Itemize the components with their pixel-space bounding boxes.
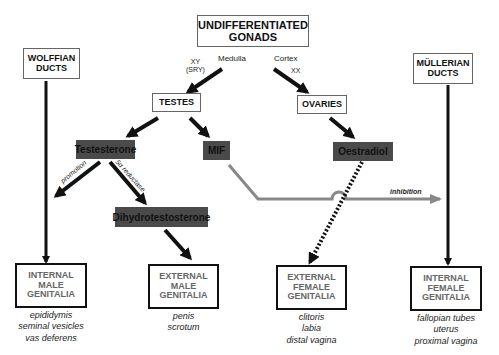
ovaries-box: OVARIES: [297, 95, 347, 114]
medulla-label: Medulla: [218, 55, 246, 64]
arrow-to-oestradiol: [330, 118, 353, 137]
testes-box: TESTES: [152, 93, 201, 112]
internal-male-list: epididymis seminal vesicles vas deferens: [10, 310, 92, 344]
dihydrotestosterone-box: Dihydrotestosterone: [115, 207, 208, 227]
arrow-to-external-male: [165, 230, 190, 258]
inhibition-label: inhibition: [390, 188, 422, 196]
external-female-list: clitoris labia distal vagina: [276, 312, 347, 346]
oestradiol-dotted-arrow: [310, 162, 362, 262]
xx-label: XX: [291, 67, 300, 75]
mullerian-ducts-box: MÜLLERIAN DUCTS: [413, 53, 473, 84]
oestradiol-box: Oestradiol: [333, 142, 393, 161]
internal-female-list: fallopian tubes uterus proximal vagina: [404, 313, 488, 347]
arrow-to-testosterone: [128, 118, 158, 136]
external-male-list: penis scrotum: [148, 311, 219, 334]
arrow-to-mif: [190, 118, 208, 136]
external-female-genitalia-box: EXTERNAL FEMALE GENITALIA: [276, 265, 347, 310]
undifferentiated-gonads-box: UNDIFFERENTIATED GONADS: [197, 15, 309, 47]
wolffian-ducts-box: WOLFFIAN DUCTS: [23, 48, 80, 79]
internal-male-genitalia-box: INTERNAL MALE GENITALIA: [15, 263, 87, 308]
mif-box: MIF: [203, 141, 230, 160]
external-male-genitalia-box: EXTERNAL MALE GENITALIA: [148, 264, 219, 309]
cortex-label: Cortex: [274, 55, 298, 64]
testosterone-box: Testesterone: [76, 140, 135, 159]
internal-female-genitalia-box: INTERNAL FEMALE GENITALIA: [410, 266, 482, 311]
xy-label: XY (SRY): [186, 58, 205, 73]
